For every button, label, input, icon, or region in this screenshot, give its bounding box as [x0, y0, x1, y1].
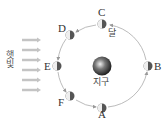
moon-F	[66, 92, 75, 101]
label-B: B	[154, 61, 161, 72]
sunlight-arrows	[22, 38, 41, 93]
moon-D	[66, 31, 75, 40]
label-A: A	[98, 109, 106, 120]
sunlight-label: 햇빛	[4, 50, 14, 68]
moon-label: 달	[106, 28, 115, 37]
moon-orbit-diagram	[0, 0, 168, 132]
label-C: C	[98, 7, 105, 18]
earth-label: 지구	[93, 78, 109, 87]
earth-icon	[93, 57, 112, 76]
moon-B	[144, 62, 153, 71]
moon-E	[53, 62, 62, 71]
label-D: D	[58, 23, 66, 34]
label-F: F	[58, 97, 64, 108]
label-E: E	[44, 61, 51, 72]
